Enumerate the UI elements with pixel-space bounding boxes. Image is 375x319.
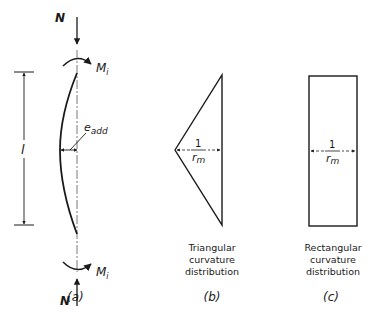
eccentricity-leader [70,133,86,150]
curvature-distribution-figure: N Mi eadd Mi N l (a) 1 rm Triangula [0,0,375,319]
deflected-column [60,73,77,234]
title-c-line2: curvature [310,254,356,265]
title-b-line1: Triangular [187,242,235,253]
eccentricity-label: eadd [84,121,108,136]
length-label: l [21,142,25,157]
curvature-numerator-c: 1 [329,139,335,150]
caption-b: (b) [204,290,221,304]
axial-load-label-top: N [55,11,65,25]
caption-c: (c) [323,290,339,304]
caption-a: (a) [67,290,84,304]
panel-c-rectangular: 1 rm Rectangular curvature distribution … [304,76,361,304]
panel-b-triangular: 1 rm Triangular curvature distribution (… [175,75,239,304]
title-c-line3: distribution [306,266,360,277]
title-b-line3: distribution [185,266,239,277]
moment-label-top: Mi [96,61,109,77]
title-c-line1: Rectangular [304,242,361,253]
curvature-numerator-b: 1 [195,138,201,149]
moment-label-bottom: Mi [96,265,109,281]
panel-a-column: N Mi eadd Mi N l (a) [14,11,109,308]
title-b-line2: curvature [189,254,235,265]
